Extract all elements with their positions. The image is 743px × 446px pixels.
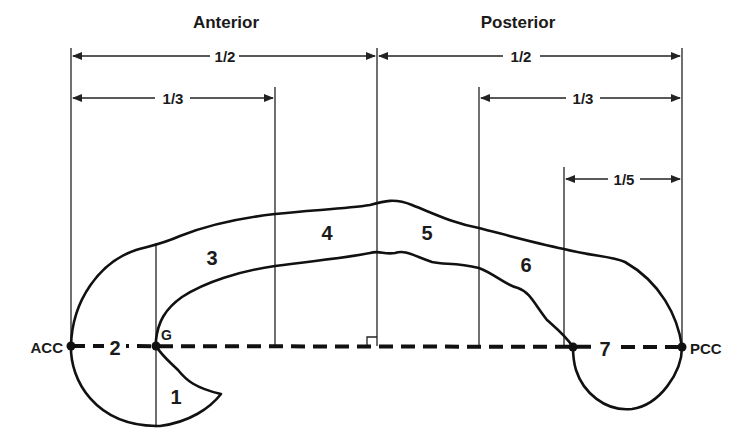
measurement-posterior-third: 1/3	[481, 90, 680, 107]
measurement-anterior-half: 1/2	[73, 48, 375, 65]
anterior-third-label: 1/3	[163, 90, 184, 107]
region-7-label: 7	[599, 338, 610, 360]
posterior-third-label: 1/3	[573, 90, 594, 107]
rostrum-contour	[156, 346, 221, 426]
inner-contour	[156, 252, 573, 347]
anterior-title: Anterior	[193, 13, 260, 32]
measurement-posterior-fifth: 1/5	[566, 171, 680, 188]
corpus-callosum-diagram: Anterior Posterior 1/2 1/3 1/2 1/3 1/5	[0, 0, 743, 446]
region-1-label: 1	[170, 386, 181, 408]
pcc-point	[678, 343, 687, 352]
posterior-half-label: 1/2	[511, 48, 532, 65]
region-2-label: 2	[109, 337, 120, 359]
acc-pcc-baseline	[71, 346, 682, 347]
genu-label: G	[161, 327, 172, 343]
measurement-posterior-half: 1/2	[379, 48, 680, 65]
region-5-label: 5	[421, 222, 432, 244]
region-3-label: 3	[206, 247, 217, 269]
splenium-point	[569, 343, 578, 352]
anterior-half-label: 1/2	[215, 48, 236, 65]
acc-label: ACC	[31, 339, 64, 356]
posterior-title: Posterior	[481, 13, 556, 32]
measurement-anterior-third: 1/3	[73, 90, 273, 107]
region-6-label: 6	[520, 254, 531, 276]
region-4-label: 4	[321, 222, 333, 244]
genu-point	[152, 342, 161, 351]
pcc-label: PCC	[690, 340, 722, 357]
posterior-fifth-label: 1/5	[614, 171, 635, 188]
acc-point	[67, 342, 76, 351]
region-labels: 2 7 1 3 4 5 6	[104, 222, 616, 408]
splenium-lower-contour	[573, 347, 682, 409]
